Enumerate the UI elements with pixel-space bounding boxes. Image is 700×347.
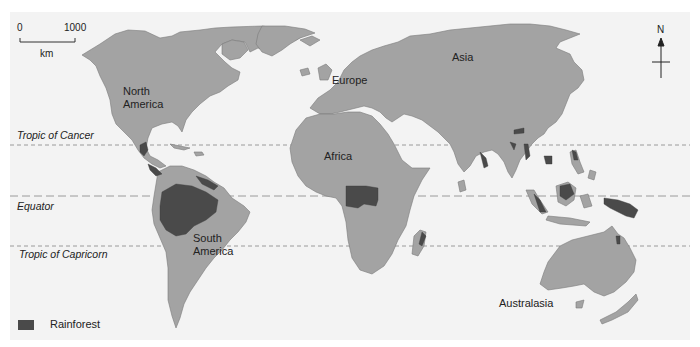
europe-label: Europe <box>332 74 367 87</box>
arctic-islands <box>300 36 320 46</box>
australasia-landmass <box>540 226 638 324</box>
north-arrow-icon <box>652 38 670 78</box>
scale-end-label: 1000 <box>64 22 86 33</box>
scale-start-label: 0 <box>17 22 23 33</box>
scale-bar <box>20 38 75 42</box>
australasia-label: Australasia <box>499 297 553 310</box>
north-america-label: North America <box>123 85 163 111</box>
scale-unit-label: km <box>40 48 53 59</box>
tropic-of-capricorn-label: Tropic of Capricorn <box>19 248 108 260</box>
tropic-of-cancer-label: Tropic of Cancer <box>17 129 94 141</box>
rainforest-congo <box>346 186 378 208</box>
north-america-landmass <box>82 26 315 168</box>
rainforest-new-guinea <box>604 198 638 218</box>
asia-label: Asia <box>452 51 473 64</box>
africa-label: Africa <box>324 150 352 163</box>
legend-rainforest-label: Rainforest <box>50 318 100 330</box>
world-map <box>0 0 700 347</box>
south-america-label: South America <box>193 232 233 258</box>
north-label: N <box>657 24 664 35</box>
legend-rainforest-swatch <box>18 320 34 330</box>
equator-label: Equator <box>17 200 54 212</box>
